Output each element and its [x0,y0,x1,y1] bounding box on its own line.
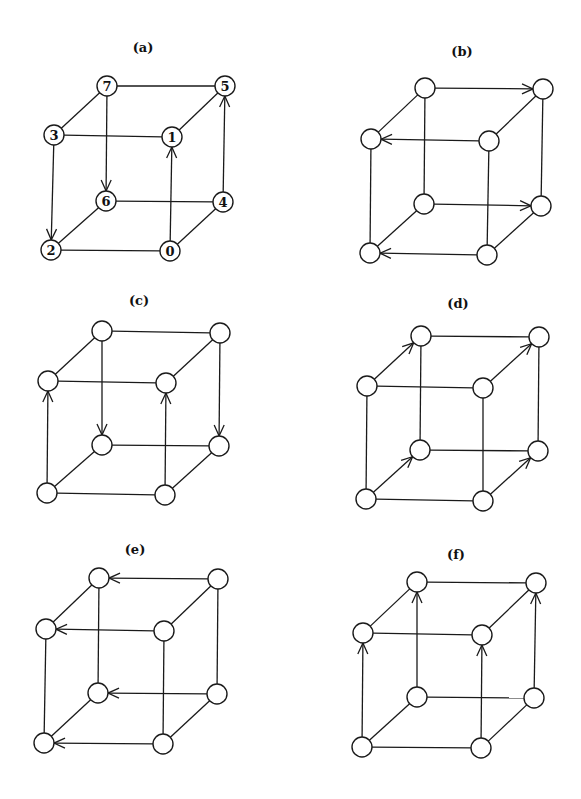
node-circle [473,378,493,398]
directed-edge [109,578,208,579]
cube-edge [61,250,160,251]
panel-label: (e) [125,542,146,557]
cube-node-tfr [479,131,499,151]
panel-label: (d) [447,296,468,311]
cube-node-bfl [37,483,57,503]
panel-label: (c) [129,293,149,308]
directed-edge [490,344,531,382]
node-circle [414,194,434,214]
cube-node-tbr [210,323,230,343]
cube-edge [369,704,409,741]
cube-node-bbr [209,436,229,456]
cube-node-bbr [531,196,551,216]
node-label: 2 [46,243,55,258]
cube-panel-c: (c) [37,293,230,505]
cube-panel-e: (e) [34,542,228,754]
node-label: 7 [102,79,111,94]
cube-edge [430,450,528,451]
cube-node-bfl [356,489,376,509]
node-circle [153,734,173,754]
directed-edge [223,96,225,192]
cube-node-tfl: 3 [44,125,64,145]
node-circle [533,79,553,99]
directed-edge [434,204,531,206]
node-circle [410,440,430,460]
cube-node-tfr [472,625,492,645]
cube-edge [538,347,539,441]
cube-edge [489,590,529,628]
cube-node-tfl [353,623,373,643]
cube-edge [541,99,543,196]
cube-edge [179,93,218,130]
cube-node-bbr [207,684,227,704]
directed-edge [219,343,220,436]
node-circle [353,623,373,643]
cube-node-bfr [155,485,175,505]
cube-node-tbl: 7 [97,76,117,96]
node-circle [210,323,230,343]
cube-node-tbr [526,573,546,593]
node-circle [528,441,548,461]
cube-node-tfl [36,619,56,639]
directed-edge [108,693,207,694]
cube-node-bfr [477,245,497,265]
cube-node-bfl [360,243,380,263]
directed-edge [362,643,363,737]
cube-node-tbl [415,78,435,98]
directed-edge [54,743,153,744]
cube-node-bbr [524,688,544,708]
node-label: 5 [220,79,229,94]
node-circle [415,78,435,98]
node-label: 1 [167,130,176,145]
directed-edge [380,253,477,255]
cube-node-tbl [411,326,431,346]
cube-node-bbr: 4 [213,192,233,212]
cube-node-bfr [153,734,173,754]
cube-edge [64,135,162,137]
node-circle [357,376,377,396]
cube-node-tfr [473,378,493,398]
node-circle [156,373,176,393]
node-circle [407,572,427,592]
cube-edge [173,340,212,376]
cube-edge [55,338,94,374]
node-circle [531,196,551,216]
cube-edge [171,586,211,624]
node-circle [89,568,109,588]
cube-node-tbl [89,568,109,588]
node-circle [36,619,56,639]
cube-edge [44,639,46,733]
node-circle [411,326,431,346]
cube-edge [170,701,209,737]
node-circle [526,573,546,593]
cube-edge [58,381,156,383]
cube-node-bfr [473,491,493,511]
node-circle [34,733,54,753]
hypercube-figure: (a)75316420(b)(c)(d)(e)(f) [0,0,581,799]
cube-edge [163,641,164,734]
node-circle [154,621,174,641]
cube-edge [98,588,99,683]
node-circle [472,625,492,645]
cube-edge [112,331,210,333]
cube-node-bfl [352,737,372,757]
cube-panel-b: (b) [360,44,553,265]
cube-edge [377,386,473,388]
cube-edge [217,589,218,684]
cube-panel-f: (f) [352,547,546,758]
panel-label: (f) [447,547,465,562]
node-circle [208,569,228,589]
cube-node-bbl [407,687,427,707]
cube-node-bbl: 6 [96,191,116,211]
node-circle [88,683,108,703]
cube-node-bfr: 0 [160,241,180,261]
cube-edge [116,201,213,202]
cube-panel-a: (a)75316420 [41,40,235,261]
cube-edge [370,589,409,626]
directed-edge [47,391,48,483]
cube-node-bbl [414,194,434,214]
panel-label: (b) [451,44,472,59]
node-label: 3 [49,128,58,143]
cube-edge [487,151,489,245]
cube-node-tbr [529,327,549,347]
